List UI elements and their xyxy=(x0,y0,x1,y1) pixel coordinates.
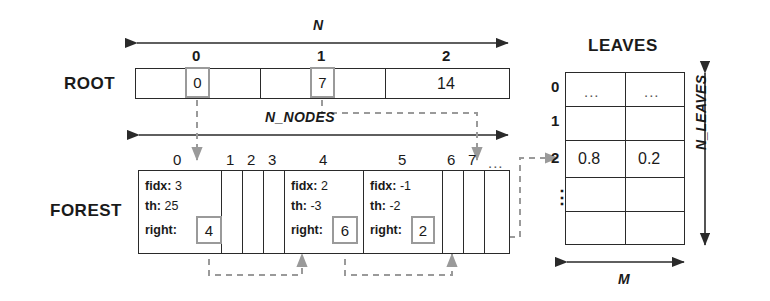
tree-ensemble-memory-layout-diagram: ROOT N 0 1 2 0 7 14 N_NODES FOREST 0 1 2… xyxy=(0,0,770,301)
root-index-1: 1 xyxy=(317,48,325,63)
forest-node-5-fidx-label: fidx: xyxy=(370,179,396,193)
leaves-cell-0-1: ... xyxy=(644,84,660,99)
forest-node-5-th-value: -2 xyxy=(389,199,400,213)
forest-label: FOREST xyxy=(50,202,122,219)
forest-divider-6-7 xyxy=(463,170,464,254)
forest-divider-3-4 xyxy=(284,170,285,254)
leaves-column-divider xyxy=(625,72,626,245)
forest-divider-7-8 xyxy=(484,170,485,254)
root-cell-0-value: 0 xyxy=(185,67,210,98)
root-divider-1 xyxy=(260,68,261,99)
leaves-row-divider-1-2 xyxy=(565,140,685,141)
leaves-row-label-0: 0 xyxy=(551,79,559,94)
root-cell-1-value: 7 xyxy=(310,67,335,98)
dimension-label-m: M xyxy=(618,272,630,286)
forest-index-1: 1 xyxy=(226,152,234,167)
forest-divider-2-3 xyxy=(263,170,264,254)
forest-node-5-right-value: 2 xyxy=(411,216,435,244)
forest-index-6: 6 xyxy=(447,152,455,167)
leaves-row-label-2: 2 xyxy=(551,150,559,165)
forest-divider-1-2 xyxy=(242,170,243,254)
forest-divider-5-6 xyxy=(442,170,443,254)
forest-node-0-fidx: fidx: 3 xyxy=(145,178,182,195)
forest-node-5-fidx: fidx: -1 xyxy=(370,178,411,195)
forest-node-0-th-value: 25 xyxy=(164,199,178,213)
forest-node-4-right-value: 6 xyxy=(332,216,358,244)
forest-index-3: 3 xyxy=(268,152,276,167)
forest-node-4-th-value: -3 xyxy=(310,199,321,213)
root-cell-2-value: 14 xyxy=(437,76,455,92)
forest-node-4-th-label: th: xyxy=(291,199,307,213)
leaves-row-divider-2-3 xyxy=(565,177,685,178)
forest-node-0-th-label: th: xyxy=(145,199,161,213)
forest-node-0-right-label: right: xyxy=(145,223,177,237)
leaves-cell-2-0: 0.8 xyxy=(578,151,600,167)
dimension-label-n-leaves: N_LEAVES xyxy=(694,75,708,150)
forest-node-5-th-label: th: xyxy=(370,199,386,213)
leaves-cell-2-1: 0.2 xyxy=(638,151,660,167)
forest-index-4: 4 xyxy=(319,152,327,167)
leaves-row-label-1: 1 xyxy=(551,113,559,128)
forest-index-7: 7 xyxy=(468,152,476,167)
forest-node-4-right-label: right: xyxy=(291,223,323,237)
forest-node-0-right: right: xyxy=(145,222,177,239)
forest-node-4-fidx-value: 2 xyxy=(321,179,328,193)
forest-node-5-right-label: right: xyxy=(370,223,402,237)
forest-node-5-right: right: xyxy=(370,222,402,239)
root-index-2: 2 xyxy=(442,48,450,63)
forest-index-0: 0 xyxy=(173,152,181,167)
forest-node-0-fidx-label: fidx: xyxy=(145,179,171,193)
leaves-cell-0-0: ... xyxy=(584,84,600,99)
forest-index-ellipsis: ... xyxy=(488,155,504,170)
forest-node-5-fidx-value: -1 xyxy=(400,179,411,193)
forest-node-4-fidx: fidx: 2 xyxy=(291,178,328,195)
root-index-0: 0 xyxy=(192,48,200,63)
forest-node-0-right-value: 4 xyxy=(196,216,222,244)
forest-divider-4-5 xyxy=(363,170,364,254)
forest-node-4-right: right: xyxy=(291,222,323,239)
leaves-title: LEAVES xyxy=(588,37,658,54)
leaves-row-divider-0-1 xyxy=(565,106,685,107)
forest-node-5-th: th: -2 xyxy=(370,198,401,215)
forest-index-2: 2 xyxy=(247,152,255,167)
root-label: ROOT xyxy=(64,75,115,92)
forest-node-0-fidx-value: 3 xyxy=(175,179,182,193)
forest-index-5: 5 xyxy=(398,152,406,167)
dimension-label-n-nodes: N_NODES xyxy=(265,110,335,124)
root-divider-2 xyxy=(385,68,386,99)
forest-node-0-th: th: 25 xyxy=(145,198,178,215)
dimension-label-n: N xyxy=(313,18,323,32)
forest-node-4-th: th: -3 xyxy=(291,198,322,215)
leaves-row-divider-3-4 xyxy=(565,211,685,212)
forest-node-4-fidx-label: fidx: xyxy=(291,179,317,193)
